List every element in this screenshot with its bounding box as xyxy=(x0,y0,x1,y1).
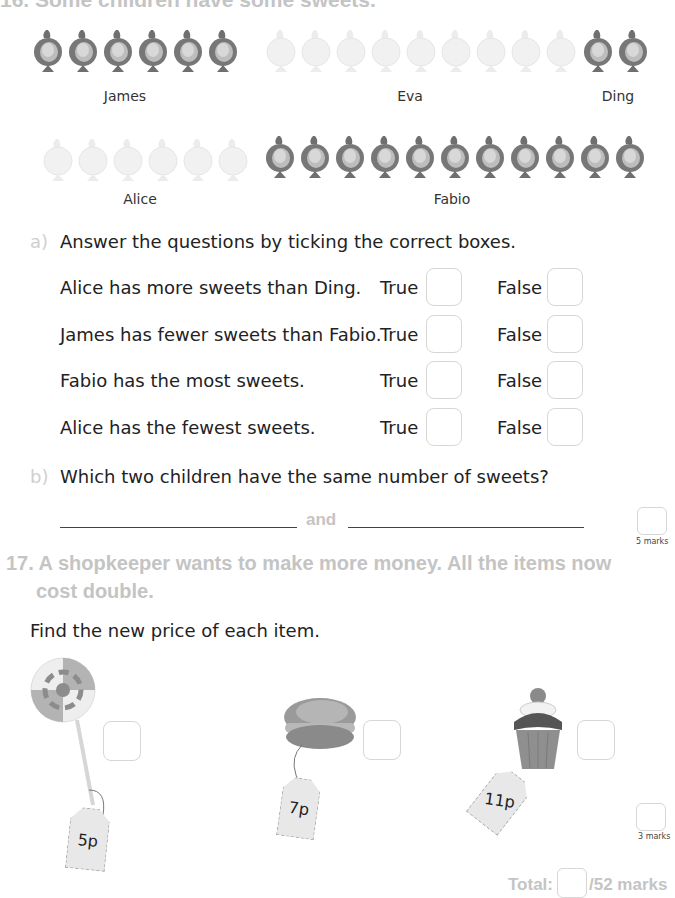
sweet-icon xyxy=(42,137,74,183)
sweet-icon xyxy=(172,28,204,74)
true-label: True xyxy=(380,370,418,391)
cupcake-icon xyxy=(508,684,568,774)
statement-3-false-box[interactable] xyxy=(547,361,583,399)
true-label: True xyxy=(380,277,418,298)
answer-line-2[interactable] xyxy=(348,527,584,528)
sweet-icon xyxy=(510,28,542,74)
false-label: False xyxy=(497,277,542,298)
child-name-eva: Eva xyxy=(360,88,460,104)
false-label: False xyxy=(497,417,542,438)
sweet-icon xyxy=(300,28,332,74)
lollipop-price: 5p xyxy=(68,829,108,852)
sweet-icon xyxy=(544,134,576,180)
sweet-icon xyxy=(299,134,331,180)
james-sweets xyxy=(32,28,242,74)
part-b-letter: b) xyxy=(30,466,48,487)
q17-marks-box[interactable] xyxy=(636,803,666,831)
sweet-icon xyxy=(614,134,646,180)
statement-3: Fabio has the most sweets. xyxy=(60,370,305,391)
macaron-answer-box[interactable] xyxy=(363,720,401,760)
true-label: True xyxy=(380,417,418,438)
sweet-icon xyxy=(579,134,611,180)
statement-1-true-box[interactable] xyxy=(426,268,462,306)
sweet-icon xyxy=(77,137,109,183)
statement-2-false-box[interactable] xyxy=(547,315,583,353)
sweet-icon xyxy=(32,28,64,74)
true-label: True xyxy=(380,324,418,345)
sweet-icon xyxy=(617,28,649,74)
child-name-fabio: Fabio xyxy=(402,191,502,207)
sweet-icon xyxy=(334,134,366,180)
statement-1: Alice has more sweets than Ding. xyxy=(60,277,361,298)
sweet-icon xyxy=(370,28,402,74)
sweet-icon xyxy=(545,28,577,74)
sweet-icon xyxy=(335,28,367,74)
fabio-sweets xyxy=(264,134,649,180)
sweet-icon xyxy=(102,28,134,74)
lollipop-answer-box[interactable] xyxy=(103,721,141,761)
sweet-icon xyxy=(217,137,249,183)
sweet-icon xyxy=(137,28,169,74)
false-label: False xyxy=(497,324,542,345)
false-label: False xyxy=(497,370,542,391)
sweet-icon xyxy=(509,134,541,180)
total-marks-box[interactable] xyxy=(557,868,587,898)
question-17-heading-line1: 17. A shopkeeper wants to make more mone… xyxy=(6,552,611,575)
statement-4: Alice has the fewest sweets. xyxy=(60,417,316,438)
statement-4-true-box[interactable] xyxy=(426,408,462,446)
answer-line-1[interactable] xyxy=(60,527,297,528)
statement-1-false-box[interactable] xyxy=(547,268,583,306)
and-connector: and xyxy=(306,510,336,530)
sweet-icon xyxy=(474,134,506,180)
question-17-heading-line2: cost double. xyxy=(36,580,154,603)
total-label: Total: xyxy=(508,875,553,895)
sweet-icon xyxy=(404,134,436,180)
q16-marks-box[interactable] xyxy=(637,507,667,535)
part-a-letter: a) xyxy=(30,231,48,252)
sweet-icon xyxy=(182,137,214,183)
sweet-icon xyxy=(405,28,437,74)
sweet-icon xyxy=(475,28,507,74)
q16-marks-label: 5 marks xyxy=(636,537,668,546)
cupcake-answer-box[interactable] xyxy=(577,720,615,760)
ding-sweets xyxy=(582,28,652,74)
question-16-heading: 16. Some children have some sweets. xyxy=(0,0,376,12)
sweet-icon xyxy=(369,134,401,180)
alice-sweets xyxy=(42,137,252,183)
sweet-icon xyxy=(582,28,614,74)
eva-sweets xyxy=(265,28,580,74)
q17-instruction: Find the new price of each item. xyxy=(30,620,320,641)
sweet-icon xyxy=(147,137,179,183)
sweet-icon xyxy=(264,134,296,180)
sweet-icon xyxy=(207,28,239,74)
sweet-icon xyxy=(439,134,471,180)
child-name-ding: Ding xyxy=(568,88,668,104)
child-name-alice: Alice xyxy=(90,191,190,207)
statement-2: James has fewer sweets than Fabio. xyxy=(60,324,382,345)
sweet-icon xyxy=(440,28,472,74)
total-out-of: /52 marks xyxy=(589,875,667,895)
macaron-price: 7p xyxy=(280,797,318,821)
child-name-james: James xyxy=(75,88,175,104)
part-b-question: Which two children have the same number … xyxy=(60,466,549,487)
part-a-instruction: Answer the questions by ticking the corr… xyxy=(60,231,516,252)
cupcake-price: 11p xyxy=(480,788,520,812)
statement-3-true-box[interactable] xyxy=(426,361,462,399)
sweet-icon xyxy=(67,28,99,74)
sweet-icon xyxy=(265,28,297,74)
q17-marks-label: 3 marks xyxy=(638,832,670,841)
cupcake-price-tag: 11p xyxy=(466,764,534,836)
sweet-icon xyxy=(112,137,144,183)
statement-4-false-box[interactable] xyxy=(547,408,583,446)
statement-2-true-box[interactable] xyxy=(426,315,462,353)
